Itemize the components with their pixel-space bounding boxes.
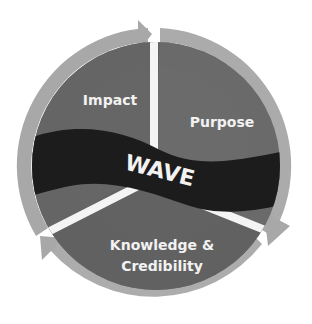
diagram-canvas: Impact Purpose Knowledge & Credibility W… [0,0,312,324]
segment-label-impact: Impact [83,92,138,108]
cycle-diagram: Impact Purpose Knowledge & Credibility W… [0,0,312,324]
segment-label-knowledge-line1: Knowledge & [110,237,214,253]
segment-label-purpose: Purpose [190,114,255,130]
segment-label-knowledge-line2: Credibility [121,258,203,274]
